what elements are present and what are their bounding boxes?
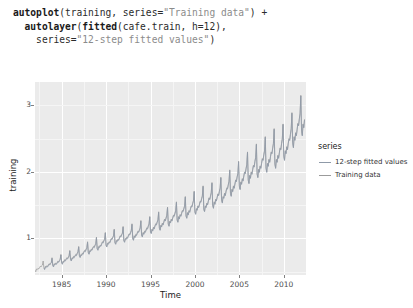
code-line-3: series="12-step fitted values") <box>13 33 267 47</box>
y-tick-mark <box>31 172 34 173</box>
legend-item: 12-step fitted values <box>318 155 410 168</box>
legend-items: 12-step fitted valuesTraining data <box>318 155 410 181</box>
y-axis-title: training <box>8 135 18 215</box>
code-token: "Training data" <box>163 7 250 18</box>
x-tick-mark <box>151 275 152 278</box>
code-line-2: autolayer(fitted(cafe.train, h=12), <box>13 20 267 34</box>
y-tick-mark <box>31 238 34 239</box>
plot-panel <box>35 82 306 275</box>
y-tick-label: 3 <box>11 100 31 109</box>
code-token: ) <box>209 34 215 45</box>
x-tick-mark <box>62 275 63 278</box>
x-tick-label: 2010 <box>274 280 293 289</box>
x-tick-mark <box>106 275 107 278</box>
code-token: "12-step fitted values" <box>77 34 210 45</box>
x-axis-ticks: 198519901995200020052010 <box>35 277 306 289</box>
code-token: fitted <box>82 21 117 32</box>
legend-key-line-icon <box>318 155 332 168</box>
y-tick-mark <box>31 105 34 106</box>
plot-figure: 123 198519901995200020052010 Time traini… <box>0 62 413 308</box>
code-token: autolayer <box>25 21 77 32</box>
y-tick-label: 1 <box>11 233 31 242</box>
x-tick-label: 1990 <box>97 280 116 289</box>
legend-key-line-icon <box>318 168 332 181</box>
legend-label: 12-step fitted values <box>335 158 407 166</box>
x-tick-mark <box>195 275 196 278</box>
x-tick-label: 2000 <box>185 280 204 289</box>
code-line-1: autoplot(training, series="Training data… <box>13 6 267 20</box>
code-token: ) + <box>250 7 267 18</box>
code-token <box>13 21 25 32</box>
legend-title: series <box>318 142 410 151</box>
x-tick-label: 1985 <box>52 280 71 289</box>
r-code-block: autoplot(training, series="Training data… <box>13 6 267 47</box>
x-tick-label: 2005 <box>230 280 249 289</box>
legend: series 12-step fitted valuesTraining dat… <box>318 142 410 181</box>
x-tick-mark <box>284 275 285 278</box>
code-token: (cafe.train, h=12), <box>117 21 227 32</box>
code-token: series= <box>13 34 77 45</box>
code-token: (training, series= <box>59 7 163 18</box>
legend-item: Training data <box>318 168 410 181</box>
series-line <box>44 96 305 270</box>
series-lines <box>35 82 306 275</box>
series-line <box>35 95 305 271</box>
x-axis-title: Time <box>35 290 306 300</box>
x-tick-label: 1995 <box>141 280 160 289</box>
code-token: autoplot <box>13 7 59 18</box>
x-tick-mark <box>239 275 240 278</box>
legend-label: Training data <box>335 171 381 179</box>
